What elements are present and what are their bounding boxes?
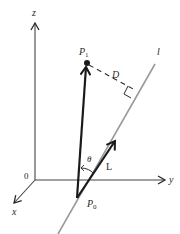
vector-L-label: L <box>106 161 112 172</box>
distance-D-label: D <box>111 69 120 80</box>
angle-theta-label: θ <box>87 154 92 164</box>
origin-label: 0 <box>24 171 29 181</box>
x-axis-label: x <box>11 206 17 217</box>
x-axis <box>14 180 35 203</box>
z-axis-label: z <box>31 7 36 18</box>
line-l-label: l <box>157 46 160 57</box>
vector-p0-p1 <box>77 67 86 198</box>
y-axis-label: y <box>168 174 174 185</box>
diagram-canvas: z y x 0 P1 P0 l D θ L <box>0 0 180 234</box>
p0-label: P0 <box>86 198 97 211</box>
line-l <box>58 64 155 234</box>
p1-label: P1 <box>78 46 89 59</box>
